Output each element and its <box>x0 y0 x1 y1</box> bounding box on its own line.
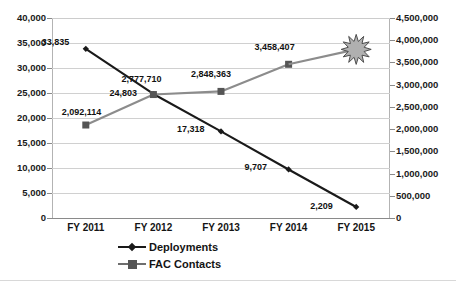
value-label-fac-contacts-fy-2014: 3,458,407 <box>255 43 295 52</box>
left-axis-labels: 05,00010,00015,00020,00025,00030,00035,0… <box>0 18 46 218</box>
square-marker-icon <box>118 258 146 270</box>
x-axis-label-fy-2014: FY 2014 <box>270 222 308 233</box>
right-tick-mark <box>390 218 395 219</box>
plot-area: 33,83524,80317,3189,7072,2092,092,1142,7… <box>52 18 390 218</box>
right-tick-mark <box>390 174 395 175</box>
left-axis-tick-label: 15,000 <box>17 138 46 148</box>
right-axis-tick-label: 4,000,000 <box>396 35 438 45</box>
left-axis-tick-label: 10,000 <box>17 163 46 173</box>
legend-item-fac-contacts: FAC Contacts <box>118 255 318 272</box>
value-label-deployments-fy-2012: 24,803 <box>109 89 137 98</box>
right-axis-tick-label: 1,000,000 <box>396 169 438 179</box>
right-axis-tick-label: 3,500,000 <box>396 57 438 67</box>
series-plot <box>52 18 390 218</box>
right-tick-mark <box>390 62 395 63</box>
right-tick-mark <box>390 151 395 152</box>
value-label-deployments-fy-2015: 2,209 <box>310 202 333 211</box>
right-tick-mark <box>390 85 395 86</box>
starburst-shape <box>341 34 371 64</box>
x-axis-label-fy-2012: FY 2012 <box>135 222 173 233</box>
x-axis-label-fy-2015: FY 2015 <box>337 222 375 233</box>
gridline <box>52 218 390 219</box>
chart-container: 05,00010,00015,00020,00025,00030,00035,0… <box>0 0 456 281</box>
right-tick-mark <box>390 40 395 41</box>
value-label-fac-contacts-fy-2013: 2,848,363 <box>191 70 231 79</box>
chart-legend: Deployments FAC Contacts <box>118 238 318 272</box>
legend-label-fac-contacts: FAC Contacts <box>149 258 221 270</box>
right-axis-tick-label: 4,500,000 <box>396 13 438 23</box>
x-axis-category-labels: FY 2011FY 2012FY 2013FY 2014FY 2015 <box>52 222 390 238</box>
right-axis-tick-label: 500,000 <box>396 191 430 201</box>
right-tick-mark <box>390 18 395 19</box>
right-axis-tick-label: 1,500,000 <box>396 146 438 156</box>
left-axis-tick-label: 25,000 <box>17 88 46 98</box>
right-axis-tick-label: 2,500,000 <box>396 102 438 112</box>
left-axis-tick-label: 20,000 <box>17 113 46 123</box>
data-point-marker <box>82 122 89 129</box>
legend-item-deployments: Deployments <box>118 238 318 255</box>
left-axis-tick-label: 5,000 <box>22 188 46 198</box>
value-label-deployments-fy-2013: 17,318 <box>177 125 205 134</box>
data-point-marker <box>150 91 157 98</box>
diamond-marker-icon <box>118 241 146 253</box>
right-axis-tick-label: 0 <box>396 213 401 223</box>
right-tick-mark <box>390 107 395 108</box>
right-axis-tick-label: 2,000,000 <box>396 124 438 134</box>
value-label-deployments-fy-2014: 9,707 <box>245 163 268 172</box>
left-axis-tick-label: 30,000 <box>17 63 46 73</box>
right-tick-mark <box>390 129 395 130</box>
value-label-fac-contacts-fy-2011: 2,092,114 <box>62 108 102 117</box>
left-axis-tick-label: 0 <box>41 213 46 223</box>
value-label-deployments-fy-2011: 33,835 <box>42 38 70 47</box>
fy2015-fac-contacts-starburst <box>289 34 372 64</box>
right-tick-mark <box>390 196 395 197</box>
x-axis-label-fy-2011: FY 2011 <box>67 222 104 233</box>
left-axis-tick-label: 40,000 <box>17 13 46 23</box>
x-axis-label-fy-2013: FY 2013 <box>202 222 240 233</box>
right-axis-labels: 0500,0001,000,0001,500,0002,000,0002,500… <box>396 18 456 218</box>
right-axis-tick-label: 3,000,000 <box>396 80 438 90</box>
legend-label-deployments: Deployments <box>149 241 218 253</box>
data-point-marker <box>218 88 225 95</box>
value-label-fac-contacts-fy-2012: 2,777,710 <box>121 75 161 84</box>
